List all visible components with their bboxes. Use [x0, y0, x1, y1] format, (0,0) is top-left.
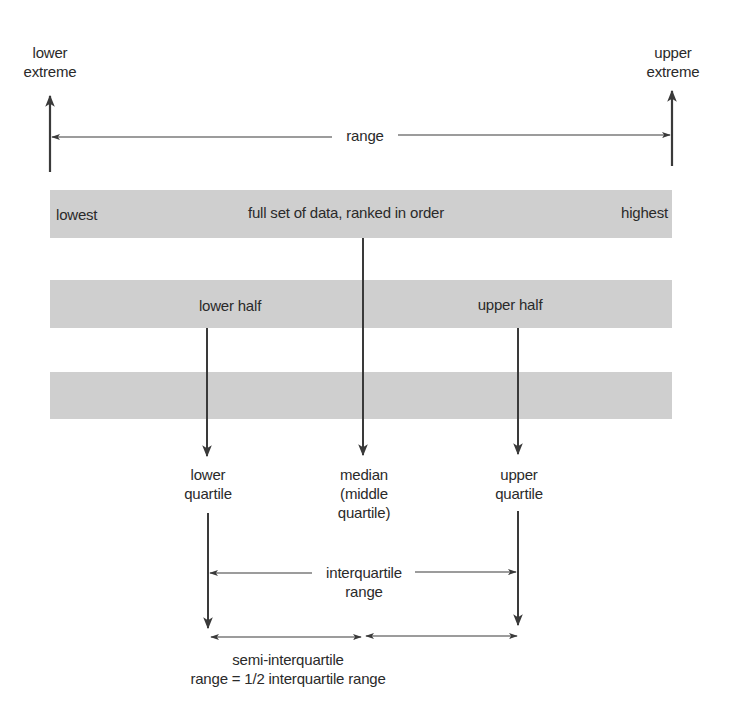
band-quartiles — [50, 372, 672, 419]
interquartile-line2: range — [326, 582, 402, 601]
upper-quartile-label: upper quartile — [495, 465, 543, 503]
band-halves — [50, 280, 672, 328]
quartile-diagram — [0, 0, 730, 715]
upper-extreme-line1: upper — [647, 43, 700, 62]
interquartile-range-label: interquartile range — [326, 563, 402, 601]
range-label: range — [346, 126, 383, 145]
upper-extreme-label: upper extreme — [647, 43, 700, 81]
highest-label: highest — [621, 203, 668, 222]
lower-quartile-line2: quartile — [184, 484, 232, 503]
lower-extreme-line2: extreme — [24, 62, 77, 81]
upper-quartile-line2: quartile — [495, 484, 543, 503]
median-line3: quartile) — [338, 503, 390, 522]
semi-interquartile-label: semi-interquartile range = 1/2 interquar… — [190, 650, 385, 688]
lower-quartile-line1: lower — [184, 465, 232, 484]
lower-half-label: lower half — [199, 296, 261, 315]
lower-extreme-line1: lower — [24, 43, 77, 62]
median-line2: (middle — [338, 484, 390, 503]
lower-quartile-label: lower quartile — [184, 465, 232, 503]
interquartile-line1: interquartile — [326, 563, 402, 582]
median-line1: median — [338, 465, 390, 484]
median-label: median (middle quartile) — [338, 465, 390, 522]
upper-half-label: upper half — [478, 295, 543, 314]
upper-quartile-line1: upper — [495, 465, 543, 484]
full-set-label: full set of data, ranked in order — [248, 203, 444, 222]
semi-interquartile-line2: range = 1/2 interquartile range — [190, 669, 385, 688]
lower-extreme-label: lower extreme — [24, 43, 77, 81]
semi-interquartile-line1: semi-interquartile — [190, 650, 385, 669]
upper-extreme-line2: extreme — [647, 62, 700, 81]
lowest-label: lowest — [56, 205, 97, 224]
